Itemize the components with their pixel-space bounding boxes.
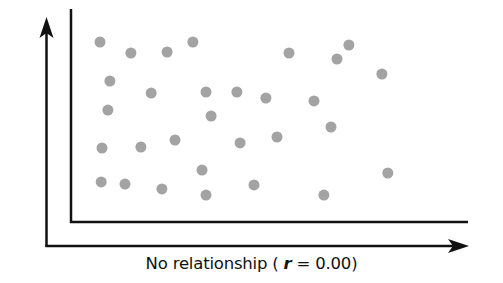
data-point bbox=[376, 69, 387, 80]
data-point bbox=[231, 87, 242, 98]
data-point bbox=[318, 190, 329, 201]
data-point bbox=[162, 47, 173, 58]
data-point bbox=[104, 76, 115, 87]
outer-axes bbox=[40, 17, 470, 253]
caption-prefix: No relationship ( bbox=[146, 254, 284, 273]
caption-r-symbol: r bbox=[284, 254, 292, 273]
data-point bbox=[97, 143, 108, 154]
data-point bbox=[201, 87, 212, 98]
data-point bbox=[382, 168, 393, 179]
scatter-chart bbox=[0, 0, 503, 283]
data-point bbox=[95, 37, 106, 48]
data-point bbox=[249, 179, 260, 190]
data-point bbox=[120, 179, 131, 190]
data-point bbox=[156, 183, 167, 194]
data-point bbox=[235, 137, 246, 148]
data-point bbox=[206, 111, 217, 122]
data-point bbox=[96, 176, 107, 187]
data-point bbox=[332, 54, 343, 65]
data-point bbox=[125, 48, 136, 59]
data-point bbox=[260, 93, 271, 104]
data-point bbox=[309, 95, 320, 106]
caption-suffix: = 0.00) bbox=[292, 254, 358, 273]
data-point bbox=[146, 88, 157, 99]
data-point bbox=[197, 165, 208, 176]
data-point bbox=[343, 40, 354, 51]
data-point bbox=[272, 132, 283, 143]
data-point bbox=[102, 105, 113, 116]
data-point bbox=[326, 122, 337, 133]
data-points bbox=[95, 37, 394, 201]
data-point bbox=[201, 190, 212, 201]
data-point bbox=[170, 135, 181, 146]
data-point bbox=[135, 142, 146, 153]
inner-plot-frame bbox=[70, 9, 468, 223]
data-point bbox=[284, 48, 295, 59]
data-point bbox=[187, 37, 198, 48]
chart-caption: No relationship ( r = 0.00) bbox=[0, 254, 503, 273]
